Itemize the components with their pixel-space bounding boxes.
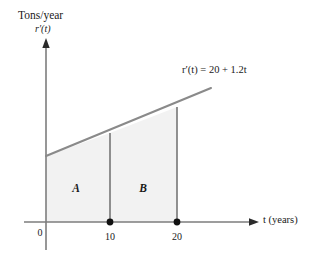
y-axis-unit-label: Tons/year	[18, 9, 63, 22]
figure-canvas: Tons/year r′(t) r′(t) = 20 + 1.2t t (yea…	[0, 0, 325, 262]
marked-point-t10	[107, 219, 114, 226]
x-axis-arrowhead	[249, 218, 259, 225]
y-axis-function-label: r′(t)	[35, 23, 51, 34]
region-label-a: A	[69, 182, 83, 195]
region-label-b: B	[136, 182, 150, 195]
x-tick-label-20: 20	[167, 231, 187, 242]
y-axis-arrowhead	[42, 38, 49, 48]
x-tick-label-0: 0	[33, 227, 47, 238]
shaded-region-a	[46, 133, 110, 222]
x-tick-label-10: 10	[100, 231, 120, 242]
x-axis-label: t (years)	[263, 214, 298, 226]
marked-point-t20	[174, 219, 181, 226]
shaded-region-b	[110, 107, 177, 222]
equation-label: r′(t) = 20 + 1.2t	[182, 64, 247, 76]
